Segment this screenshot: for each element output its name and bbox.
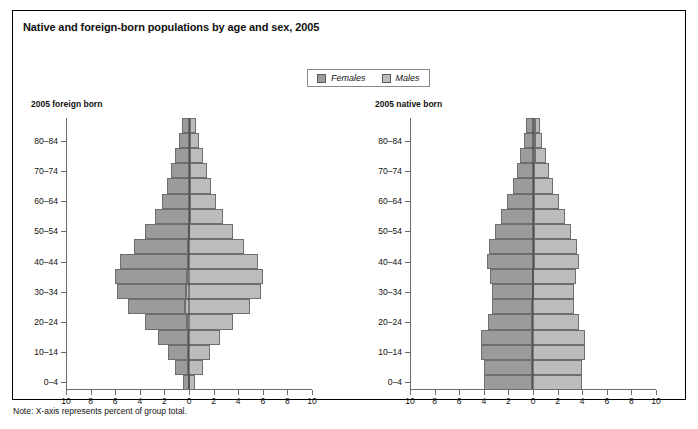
x-axis-tick: [189, 390, 190, 395]
y-axis-tick: [61, 201, 66, 202]
legend-label-females: Females: [331, 73, 366, 83]
y-axis-ticks: 0–410–1420–2430–3440–4450–5460–6470–7480…: [410, 118, 656, 390]
x-axis-tick-label: 8: [629, 396, 634, 406]
x-axis-tick: [631, 390, 632, 395]
x-axis-tick: [410, 390, 411, 395]
x-axis-tick: [214, 390, 215, 395]
y-axis-tick-label: 50–54: [34, 226, 58, 236]
y-axis-tick: [405, 141, 410, 142]
x-axis-tick: [508, 390, 509, 395]
x-axis-tick: [582, 390, 583, 395]
y-axis-tick: [405, 382, 410, 383]
x-axis-tick-label: 6: [260, 396, 265, 406]
x-axis-ticks: 1086420246810: [410, 390, 656, 395]
y-axis-tick-label: 80–84: [378, 136, 402, 146]
x-axis-tick: [91, 390, 92, 395]
y-axis-tick: [405, 292, 410, 293]
y-axis-tick: [61, 352, 66, 353]
panel-title-native-born: 2005 native born: [375, 99, 442, 109]
x-axis-tick-label: 4: [137, 396, 142, 406]
y-axis-tick: [405, 171, 410, 172]
x-axis-tick-label: 2: [506, 396, 511, 406]
y-axis-tick: [61, 141, 66, 142]
x-axis-tick: [115, 390, 116, 395]
y-axis-tick-label: 0–4: [44, 377, 58, 387]
y-axis-tick-label: 10–14: [378, 347, 402, 357]
legend-entry-females: Females: [317, 73, 366, 83]
y-axis-tick: [61, 292, 66, 293]
x-axis-tick-label: 2: [211, 396, 216, 406]
panel-title-foreign-born: 2005 foreign born: [31, 99, 102, 109]
y-axis-tick-label: 30–34: [34, 287, 58, 297]
x-axis-tick-label: 6: [113, 396, 118, 406]
y-axis-tick-label: 70–74: [378, 166, 402, 176]
x-axis-tick-label: 8: [88, 396, 93, 406]
y-axis-tick: [61, 171, 66, 172]
y-axis-tick-label: 30–34: [378, 287, 402, 297]
y-axis-tick-label: 20–24: [378, 317, 402, 327]
x-axis-tick: [140, 390, 141, 395]
y-axis-tick-label: 40–44: [378, 257, 402, 267]
y-axis-tick-label: 20–24: [34, 317, 58, 327]
legend-entry-males: Males: [382, 73, 420, 83]
x-axis-tick: [66, 390, 67, 395]
y-axis-tick: [405, 352, 410, 353]
y-axis-tick: [61, 262, 66, 263]
x-axis-ticks: 1086420246810: [66, 390, 312, 395]
y-axis-tick: [61, 231, 66, 232]
y-axis-tick-label: 50–54: [378, 226, 402, 236]
x-axis-tick: [656, 390, 657, 395]
x-axis-tick: [263, 390, 264, 395]
y-axis-tick-label: 10–14: [34, 347, 58, 357]
x-axis-tick: [533, 390, 534, 395]
x-axis-tick-label: 10: [307, 396, 316, 406]
x-axis-tick-label: 2: [555, 396, 560, 406]
y-axis-tick-label: 60–64: [378, 196, 402, 206]
x-axis-tick: [459, 390, 460, 395]
figure-note: Note: X-axis represents percent of group…: [13, 406, 187, 416]
x-axis-tick: [238, 390, 239, 395]
x-axis-tick-label: 8: [285, 396, 290, 406]
x-axis-tick: [558, 390, 559, 395]
figure-container: Native and foreign-born populations by a…: [12, 10, 686, 400]
x-axis-tick-label: 6: [604, 396, 609, 406]
x-axis-tick: [607, 390, 608, 395]
y-axis-tick-label: 40–44: [34, 257, 58, 267]
x-axis-tick-label: 8: [432, 396, 437, 406]
y-axis-tick-label: 60–64: [34, 196, 58, 206]
x-axis-tick: [484, 390, 485, 395]
x-axis-tick: [164, 390, 165, 395]
legend-label-males: Males: [396, 73, 420, 83]
x-axis-tick-label: 4: [481, 396, 486, 406]
y-axis-ticks: 0–410–1420–2430–3440–4450–5460–6470–7480…: [66, 118, 312, 390]
x-axis-tick-label: 2: [162, 396, 167, 406]
x-axis-tick-label: 10: [405, 396, 414, 406]
x-axis-tick-label: 10: [651, 396, 660, 406]
x-axis-tick-label: 4: [580, 396, 585, 406]
y-axis-tick: [61, 382, 66, 383]
x-axis-tick-label: 6: [457, 396, 462, 406]
x-axis-tick-label: 0: [531, 396, 536, 406]
legend-swatch-males: [382, 74, 391, 83]
legend-swatch-females: [317, 74, 326, 83]
x-axis-tick-label: 0: [187, 396, 192, 406]
y-axis-tick-label: 80–84: [34, 136, 58, 146]
y-axis-tick: [405, 262, 410, 263]
x-axis-tick-label: 4: [236, 396, 241, 406]
y-axis-tick-label: 0–4: [388, 377, 402, 387]
x-axis-tick: [435, 390, 436, 395]
y-axis-tick: [405, 231, 410, 232]
chart-legend: Females Males: [307, 69, 430, 87]
plot-native-born: 0–410–1420–2430–3440–4450–5460–6470–7480…: [410, 118, 656, 390]
x-axis-tick: [312, 390, 313, 395]
y-axis-tick-label: 70–74: [34, 166, 58, 176]
x-axis-tick: [287, 390, 288, 395]
y-axis-tick: [405, 322, 410, 323]
y-axis-tick: [61, 322, 66, 323]
figure-title: Native and foreign-born populations by a…: [23, 21, 319, 33]
x-axis-tick-label: 10: [61, 396, 70, 406]
plot-foreign-born: 0–410–1420–2430–3440–4450–5460–6470–7480…: [66, 118, 312, 390]
y-axis-tick: [405, 201, 410, 202]
